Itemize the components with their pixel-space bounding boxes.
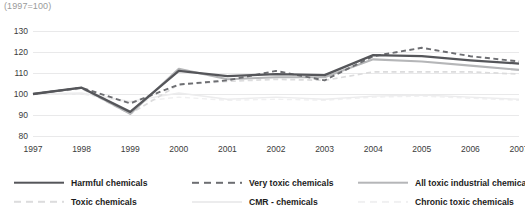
chart-container: (1997=100) 8090100110120130 199719981999… (0, 0, 525, 220)
legend-row: Toxic chemicals CMR - chemicals Chronic … (0, 193, 525, 210)
legend-item-cmr-chemicals: CMR - chemicals (186, 193, 354, 210)
x-axis-tick-label: 2002 (267, 144, 286, 154)
x-axis-tick-label: 2007 (510, 144, 525, 154)
legend-row: Harmful chemicals Very toxic chemicals A… (0, 174, 525, 191)
legend-item-toxic-chemicals: Toxic chemicals (0, 193, 186, 210)
legend-label: Toxic chemicals (71, 197, 137, 207)
legend-label: All toxic industrial chemicals (415, 178, 525, 188)
x-axis-tick-label: 2003 (315, 144, 334, 154)
x-axis-tick-label: 2001 (218, 144, 237, 154)
legend-label: Chronic toxic chemicals (415, 197, 514, 207)
chart-legend: Harmful chemicals Very toxic chemicals A… (0, 172, 525, 218)
legend-label: Very toxic chemicals (249, 178, 334, 188)
x-axis-tick-label: 1998 (72, 144, 91, 154)
legend-swatch-line-icon (14, 178, 64, 188)
y-axis-tick-label: 100 (14, 89, 28, 99)
y-axis-tick-label: 120 (14, 47, 28, 57)
y-axis-tick-label: 130 (14, 26, 28, 36)
legend-swatch-line-icon (192, 197, 242, 207)
x-axis-tick-label: 2000 (169, 144, 188, 154)
legend-label: Harmful chemicals (71, 178, 147, 188)
y-axis-tick-label: 90 (19, 110, 29, 120)
x-axis-tick-label: 1997 (24, 144, 43, 154)
gridlines (33, 31, 519, 136)
legend-swatch-line-icon (192, 178, 242, 188)
legend-item-all-toxic-industrial-chemicals: All toxic industrial chemicals (354, 174, 525, 191)
series-line (33, 48, 519, 104)
legend-label: CMR - chemicals (249, 197, 318, 207)
series-line (33, 59, 519, 114)
line-chart-plot: 8090100110120130 19971998199920002001200… (0, 0, 525, 172)
legend-swatch-line-icon (358, 197, 408, 207)
data-series-group (33, 48, 519, 114)
y-axis-tick-labels: 8090100110120130 (14, 26, 28, 141)
x-axis-tick-label: 2006 (461, 144, 480, 154)
y-axis-tick-label: 80 (19, 131, 29, 141)
x-axis-tick-label: 1999 (121, 144, 140, 154)
legend-swatch-line-icon (358, 178, 408, 188)
y-axis-tick-label: 110 (14, 68, 28, 78)
x-axis-tick-label: 2004 (364, 144, 383, 154)
legend-item-chronic-toxic-chemicals: Chronic toxic chemicals (354, 193, 525, 210)
legend-item-harmful-chemicals: Harmful chemicals (0, 174, 186, 191)
legend-swatch-line-icon (14, 197, 64, 207)
x-axis-tick-labels: 1997199819992000200120022003200420052006… (24, 144, 525, 154)
legend-item-very-toxic-chemicals: Very toxic chemicals (186, 174, 354, 191)
x-axis-tick-label: 2005 (412, 144, 431, 154)
